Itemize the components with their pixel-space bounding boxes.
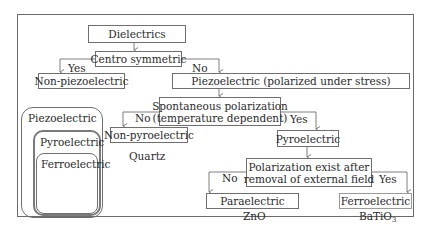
node-polarization-exist: Polarization exist after removal of exte… [246,158,372,187]
node-paraelectric: Paraelectric [206,193,299,209]
example-zno: ZnO [243,210,266,222]
set-label-pyroelectric: Pyroelectric [40,136,104,148]
edge-label-pol-yes: Yes [379,173,397,185]
node-dielectrics: Dielectrics [88,25,186,43]
node-label-line1: Polarization exist after [249,161,370,173]
node-label: Piezoelectric (polarized under stress) [191,75,390,87]
edge-label-spont-no: No [135,112,151,124]
node-ferroelectric: Ferroelectric [339,193,412,209]
edge-label-spont-yes: Yes [290,113,308,125]
set-label-ferroelectric: Ferroelectric [41,158,110,170]
node-pyroelectric: Pyroelectric [277,130,339,147]
node-label: Dielectrics [108,28,165,40]
example-batio3-main: BaTiO [359,210,392,222]
set-label-piezoelectric: Piezoelectric [28,112,97,124]
example-batio3-sub: 3 [392,216,396,224]
set-ferroelectric: Ferroelectric [36,153,98,214]
node-label: Non-pyroelectric [104,129,194,141]
node-label-line2: (temperature dependent) [153,112,288,124]
node-label: Pyroelectric [276,133,340,145]
example-quartz: Quartz [129,150,165,162]
edge-label-pol-no: No [222,172,238,184]
node-non-piezoelectric: Non-piezoelectric [38,73,125,89]
example-batio3: BaTiO3 [359,210,396,226]
node-label: Non-piezoelectric [34,75,128,87]
node-piezoelectric: Piezoelectric (polarized under stress) [172,73,410,89]
node-label: Centro symmetric [91,53,187,65]
node-label-line1: Spontaneous polarization [152,100,288,112]
node-label: Ferroelectric [341,195,410,207]
node-non-pyroelectric: Non-pyroelectric [110,127,188,143]
node-centro-symmetric: Centro symmetric [95,51,182,67]
node-label: Paraelectric [220,195,284,207]
node-label-line2: removal of external field [244,173,375,185]
node-spontaneous-polarization: Spontaneous polarization (temperature de… [159,97,281,126]
